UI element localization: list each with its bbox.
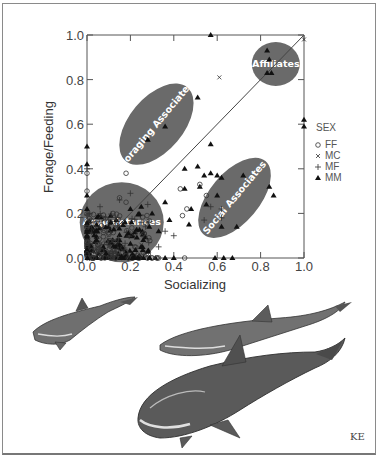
legend-entry-ff: FF [325, 139, 337, 150]
x-axis-title: Socializing [164, 277, 226, 292]
legend-entry-mf: MF [325, 161, 339, 172]
y-tick-label: 0.8 [66, 73, 84, 88]
legend-title: SEX [316, 122, 336, 133]
y-tick-label: 0.4 [66, 162, 84, 177]
x-tick-label: 0.8 [252, 259, 270, 274]
legend-entry-mm: MM [325, 172, 342, 183]
small-dolphin [33, 297, 138, 350]
y-tick-label: 0.0 [66, 251, 84, 266]
region-foraging-associates: Foraging Associates [105, 70, 208, 178]
x-tick-label: 1.0 [295, 259, 313, 274]
region-social-associates: Social Associates [185, 145, 285, 251]
artist-signature: KE [350, 431, 365, 442]
y-tick-label: 0.6 [66, 117, 84, 132]
y-tick-label: 0.2 [66, 206, 84, 221]
x-tick-label: 0.4 [165, 259, 183, 274]
legend: SEX FFMCMFMM [315, 122, 342, 183]
scatter-chart: AffiliatesForaging AssociatesSocial Asso… [0, 0, 378, 456]
x-tick-label: 0.2 [121, 259, 139, 274]
dolphin-illustration: KE [33, 297, 365, 448]
x-tick-label: 0.6 [208, 259, 226, 274]
y-tick-label: 1.0 [66, 28, 84, 43]
legend-entry-mc: MC [325, 150, 341, 161]
middle-dolphin [160, 302, 352, 356]
y-axis-title: Forage/Feeding [41, 101, 56, 193]
